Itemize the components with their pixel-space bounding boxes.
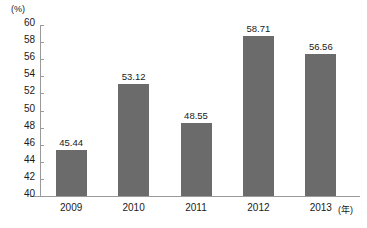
y-axis-tick-label: 46	[24, 138, 35, 148]
y-axis-tick-label: 44	[24, 155, 35, 165]
x-axis-category-label: 2009	[41, 202, 101, 213]
bar-column[interactable]: 48.55	[181, 123, 212, 196]
y-axis-tick-label: 56	[24, 52, 35, 62]
bar-column[interactable]: 56.56	[305, 54, 336, 196]
bar[interactable]	[56, 150, 87, 197]
x-axis-line	[30, 196, 360, 197]
y-axis-tick-mark	[40, 196, 44, 197]
bar-value-label: 56.56	[309, 42, 333, 52]
bar-column[interactable]: 53.12	[118, 84, 149, 196]
bar-value-label: 58.71	[247, 24, 271, 34]
x-axis-category-label: 2012	[228, 202, 288, 213]
bar[interactable]	[243, 36, 274, 196]
bar[interactable]	[305, 54, 336, 196]
y-axis-tick-label: 48	[24, 121, 35, 131]
bar-chart: (%) (年) 4042444648505254565860 45.4453.1…	[0, 0, 367, 228]
y-axis-tick-label: 40	[24, 189, 35, 199]
bar-value-label: 53.12	[122, 72, 146, 82]
bar-value-label: 48.55	[184, 111, 208, 121]
plot-area: 45.4453.1248.5558.7156.56	[40, 25, 352, 196]
x-axis-category-label: 2013	[291, 202, 351, 213]
y-axis-unit-label: (%)	[11, 4, 25, 14]
y-axis-tick-label: 58	[24, 35, 35, 45]
y-axis-tick-label: 52	[24, 86, 35, 96]
bar[interactable]	[118, 84, 149, 196]
y-axis-tick-label: 50	[24, 104, 35, 114]
y-axis-tick-label: 54	[24, 69, 35, 79]
y-axis-tick-label: 42	[24, 172, 35, 182]
x-axis-category-label: 2011	[166, 202, 226, 213]
bar[interactable]	[181, 123, 212, 196]
bar-column[interactable]: 58.71	[243, 36, 274, 196]
x-axis-category-label: 2010	[104, 202, 164, 213]
bar-value-label: 45.44	[59, 138, 83, 148]
y-axis-tick-label: 60	[24, 18, 35, 28]
bar-column[interactable]: 45.44	[56, 150, 87, 197]
